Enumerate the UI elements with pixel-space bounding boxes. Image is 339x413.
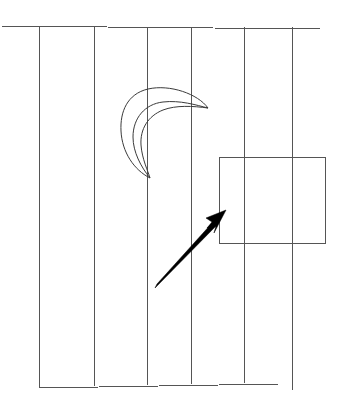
arrow-shaft: [155, 222, 216, 288]
top-horizontal-line: [0, 26, 320, 29]
ruled-vertical-lines: [39, 27, 292, 390]
diagram-svg: [0, 0, 339, 413]
empty-rectangle: [219, 157, 325, 243]
drawing-canvas: [0, 0, 339, 413]
crescent-moon-inner-arc: [141, 106, 208, 178]
crescent-moon-outer-arc: [121, 88, 208, 178]
crescent-moon: [121, 88, 208, 178]
bottom-horizontal-line: [39, 384, 279, 388]
